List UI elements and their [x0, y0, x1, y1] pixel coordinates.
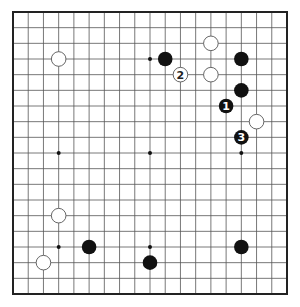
star-point — [57, 151, 61, 155]
white-stone — [51, 52, 66, 67]
star-point — [57, 245, 61, 249]
white-stone — [204, 36, 219, 51]
black-stone-icon — [82, 240, 97, 255]
black-stone — [82, 240, 97, 255]
white-stone — [249, 114, 264, 129]
star-point — [148, 151, 152, 155]
move-number: 2 — [177, 69, 185, 82]
star-point — [148, 57, 152, 61]
black-stone-3: 3 — [234, 130, 249, 145]
black-stone — [234, 240, 249, 255]
black-stone-icon — [143, 255, 158, 270]
black-stone — [143, 255, 158, 270]
go-board: 213 — [0, 0, 300, 307]
white-stone-icon — [51, 208, 66, 223]
star-point — [148, 245, 152, 249]
white-stone — [204, 67, 219, 82]
white-stone-icon — [249, 114, 264, 129]
black-stone-icon — [158, 52, 173, 67]
black-stone — [234, 83, 249, 98]
white-stone-icon — [36, 255, 51, 270]
black-stone — [158, 52, 173, 67]
go-board-svg: 213 — [0, 0, 300, 307]
move-number: 3 — [238, 131, 246, 144]
white-stone-2: 2 — [173, 67, 188, 82]
white-stone-icon — [204, 36, 219, 51]
move-number: 1 — [222, 100, 230, 113]
black-stone-icon — [234, 83, 249, 98]
white-stone — [36, 255, 51, 270]
black-stone-icon — [234, 240, 249, 255]
black-stone — [234, 52, 249, 67]
star-point — [239, 151, 243, 155]
white-stone-icon — [51, 52, 66, 67]
white-stone — [51, 208, 66, 223]
white-stone-icon — [204, 67, 219, 82]
black-stone-icon — [234, 52, 249, 67]
black-stone-1: 1 — [219, 99, 234, 114]
